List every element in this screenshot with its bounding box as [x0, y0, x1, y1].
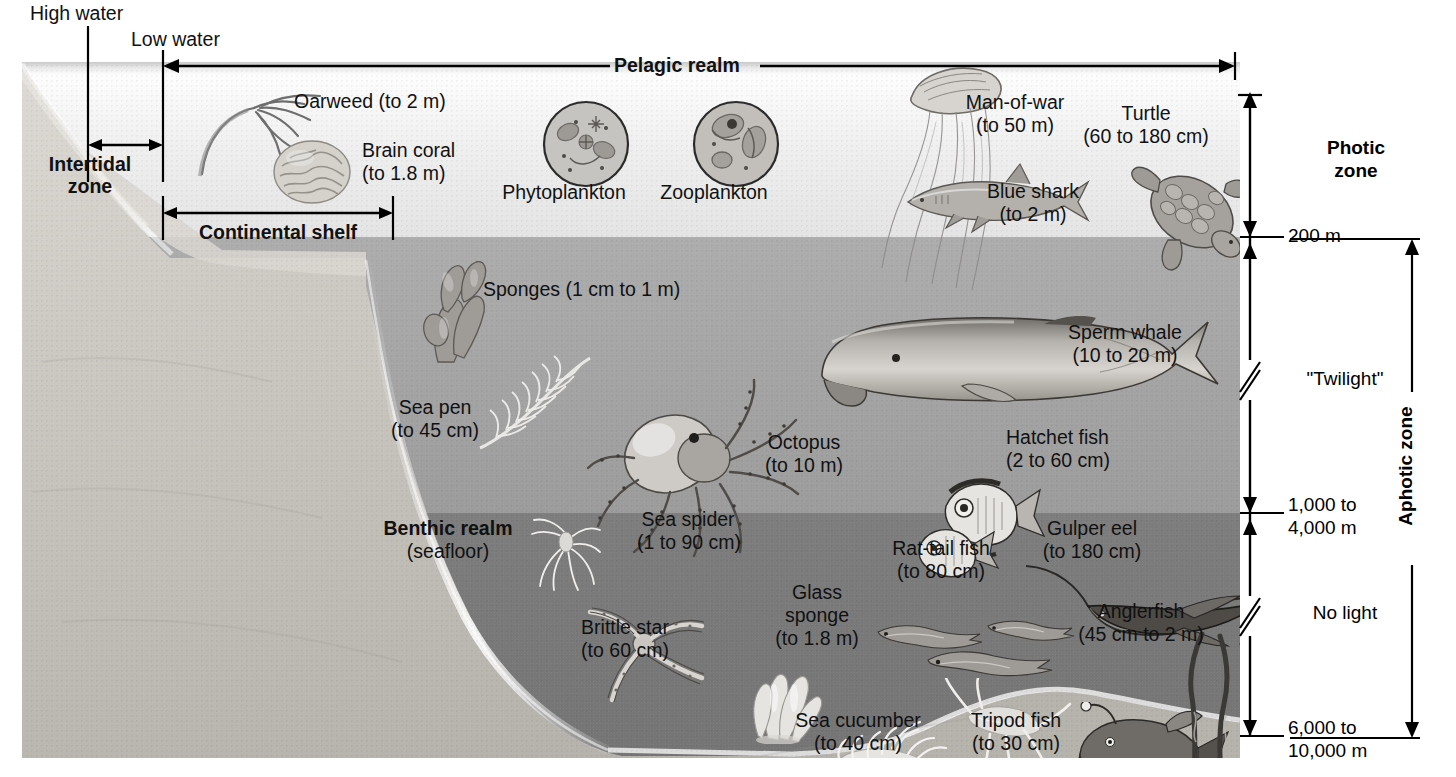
- zooplankton-label: Zooplankton: [636, 182, 792, 204]
- phytoplankton-label: Phytoplankton: [484, 182, 644, 204]
- depth-200m-label: 200 m: [1288, 225, 1341, 247]
- octopus-label-line2: (to 10 m): [738, 455, 870, 477]
- depth-1000m-label-line1: 1,000 to: [1288, 494, 1357, 516]
- depth-6000m-label-line2: 10,000 m: [1288, 740, 1367, 762]
- depth-1000m-label-line2: 4,000 m: [1288, 517, 1357, 539]
- sea-pen-label-line2: (to 45 cm): [366, 420, 504, 442]
- anglerfish-label-line1: Anglerfish: [1058, 601, 1224, 623]
- octopus-label-line1: Octopus: [742, 432, 866, 454]
- intertidal-zone-label-line1: Intertidal: [23, 154, 157, 176]
- glass-sponge-label-line2: sponge: [762, 605, 872, 627]
- depth-6000m-label-line1: 6,000 to: [1288, 717, 1357, 739]
- aphotic-zone-label: Aphotic zone: [1395, 406, 1417, 525]
- sperm-whale-label-line2: (10 to 20 m): [1032, 345, 1218, 367]
- rat-tail-fish-label-line2: (to 80 cm): [856, 561, 1026, 583]
- sea-spider-label-line2: (1 to 90 cm): [598, 532, 780, 554]
- anglerfish-label-line2: (45 cm to 2 m): [1036, 624, 1246, 646]
- phytoplankton-illustration: [540, 98, 632, 190]
- photic-zone-label-line1: Photic: [1286, 137, 1426, 159]
- blue-shark-label-line1: Blue shark: [958, 181, 1108, 203]
- brittle-star-label-line1: Brittle star: [544, 617, 706, 639]
- benthic-realm-sublabel: (seafloor): [338, 541, 558, 563]
- pelagic-realm-label: Pelagic realm: [614, 55, 740, 77]
- brain-coral-label-line1: Brain coral: [362, 140, 455, 162]
- turtle-illustration: [1130, 158, 1240, 278]
- sea-pen-label-line1: Sea pen: [374, 397, 496, 419]
- gulper-eel-label-line1: Gulper eel: [1012, 518, 1172, 540]
- glass-sponge-label-line3: (to 1.8 m): [752, 628, 882, 650]
- low-water-label: Low water: [131, 29, 220, 51]
- sponges-label: Sponges (1 cm to 1 m): [483, 279, 680, 301]
- benthic-realm-label: Benthic realm: [338, 518, 558, 540]
- hatchet-fish-label-line1: Hatchet fish: [1006, 427, 1109, 449]
- brain-coral-label-line2: (to 1.8 m): [362, 163, 445, 185]
- turtle-label-line1: Turtle: [1056, 103, 1236, 125]
- gulper-eel-label-line2: (to 180 cm): [1000, 541, 1184, 563]
- photic-zone-label-line2: zone: [1286, 160, 1426, 182]
- no-light-zone-label: No light: [1270, 602, 1420, 624]
- sea-spider-label-line1: Sea spider: [608, 509, 768, 531]
- tripod-fish-label-line2: (to 30 cm): [936, 733, 1096, 755]
- sperm-whale-label-line1: Sperm whale: [1032, 322, 1218, 344]
- ocean-zones-diagram: High water Low water Pelagic realm Inter…: [0, 0, 1456, 777]
- zooplankton-illustration: [690, 98, 782, 190]
- high-water-label: High water: [30, 3, 123, 25]
- continental-shelf-label: Continental shelf: [166, 222, 390, 244]
- turtle-label-line2: (60 to 180 cm): [1046, 126, 1246, 148]
- intertidal-zone-label-line2: zone: [23, 176, 157, 198]
- oarweed-label: Oarweed (to 2 m): [294, 91, 446, 113]
- sea-cucumber-label-line2: (to 40 cm): [760, 733, 956, 755]
- tripod-fish-label-line1: Tripod fish: [936, 710, 1096, 732]
- hatchet-fish-label-line2: (2 to 60 cm): [1006, 450, 1110, 472]
- depth-scale-column: Photic zone 200 m "Twilight" 1,000 to 4,…: [1240, 0, 1456, 777]
- glass-sponge-label-line1: Glass: [762, 582, 872, 604]
- sea-cucumber-label-line1: Sea cucumber: [760, 710, 956, 732]
- brain-coral-illustration: [270, 132, 354, 206]
- sponges-illustration: [418, 254, 494, 364]
- brittle-star-label-line2: (to 60 cm): [544, 640, 706, 662]
- blue-shark-label-line2: (to 2 m): [958, 204, 1108, 226]
- twilight-zone-label: "Twilight": [1270, 368, 1420, 390]
